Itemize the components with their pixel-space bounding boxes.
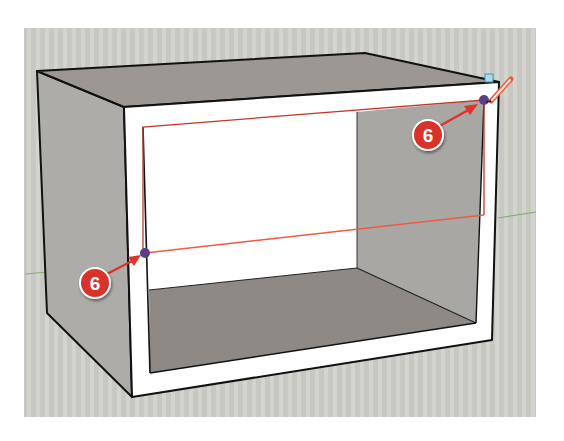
callout-badge-left-label: 6 xyxy=(90,273,101,294)
endpoint-left-marker[interactable] xyxy=(140,248,150,258)
box-model[interactable] xyxy=(37,53,499,397)
endpoint-right-marker[interactable] xyxy=(479,95,489,105)
back-wall[interactable] xyxy=(143,112,357,290)
snap-marker-icon xyxy=(485,74,493,82)
modeling-viewport[interactable]: 6 6 xyxy=(0,0,564,441)
callout-badge-right-label: 6 xyxy=(423,125,434,146)
